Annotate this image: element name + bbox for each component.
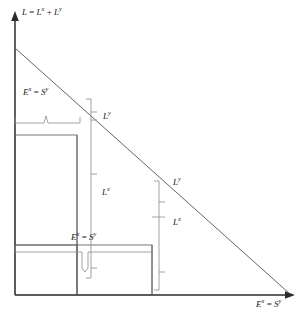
budget-frontier-line: [15, 48, 290, 294]
ex-sy-bottom-eq: =: [79, 232, 89, 242]
ly-right-sup: y: [178, 175, 181, 182]
ly-upper-sup: y: [108, 109, 111, 116]
annotation-ex-sy-top: Ex = Sy: [23, 88, 48, 97]
y-axis-arrowhead: [11, 11, 19, 21]
y-axis-title-eq: =: [27, 7, 37, 17]
annotation-ly-upper: Ly: [103, 112, 111, 121]
annotation-ex-sy-bottom: Ex = Sy: [71, 233, 96, 242]
lx-right-sup: x: [178, 215, 181, 222]
right-vertical-brace-path: [154, 181, 159, 290]
annotation-lx-right: Lx: [173, 218, 181, 227]
lower-left-block: [15, 245, 77, 295]
x-axis-title: Ex = Sy: [256, 300, 281, 309]
left-vertical-brace-path: [86, 99, 91, 278]
bottom-horizontal-brace: [15, 245, 152, 272]
left-vertical-brace: [86, 99, 97, 278]
x-axis-title-eq: =: [264, 299, 274, 309]
bottom-horizontal-brace-path: [15, 245, 152, 272]
right-vertical-brace: [152, 181, 165, 290]
annotation-ly-right: Ly: [173, 178, 181, 187]
top-horizontal-brace: [15, 116, 80, 123]
diagram-canvas: [0, 0, 307, 318]
x-axis-title-term2-sup: y: [278, 297, 281, 304]
lx-middle-sup: x: [107, 185, 110, 192]
y-axis-title-term2-sup: y: [59, 5, 62, 12]
annotation-lx-middle: Lx: [102, 188, 110, 197]
ex-sy-top-term2-sup: y: [45, 85, 48, 92]
rectangle-blocks-group: [15, 135, 152, 295]
top-horizontal-brace-path: [15, 116, 80, 123]
y-axis-title-plus: +: [45, 7, 55, 17]
axes-group: [11, 11, 295, 299]
x-axis-arrowhead: [285, 291, 295, 299]
ex-sy-top-eq: =: [31, 87, 41, 97]
ex-sy-bottom-term2-sup: y: [93, 230, 96, 237]
economics-diagram-figure: L = Lx + Ly Ex = Sy Ly Lx Ly Lx Ex = Sy …: [0, 0, 307, 318]
y-axis-title: L = Lx + Ly: [22, 8, 62, 17]
upper-left-block: [15, 135, 77, 245]
